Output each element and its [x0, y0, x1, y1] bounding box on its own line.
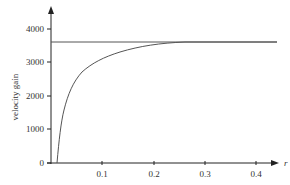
- y-ticks: [47, 29, 51, 163]
- x-axis-label: r: [284, 158, 288, 168]
- velocity-gain-chart: 0 1000 2000 3000 4000 0.1 0.2 0.3 0.4 r …: [0, 0, 290, 185]
- chart-canvas: 0 1000 2000 3000 4000 0.1 0.2 0.3 0.4 r …: [0, 0, 290, 185]
- x-tick-label: 0.4: [250, 169, 262, 179]
- x-tick-label: 0.3: [199, 169, 211, 179]
- x-tick-label: 0.2: [148, 169, 159, 179]
- x-axis-arrow-icon: [271, 160, 279, 166]
- x-tick-labels: 0.1 0.2 0.3 0.4: [96, 169, 262, 179]
- x-tick-label: 0.1: [96, 169, 107, 179]
- y-tick-label: 2000: [26, 91, 45, 101]
- y-tick-label: 1000: [26, 124, 45, 134]
- y-tick-label: 3000: [26, 57, 45, 67]
- y-axis-label: velocity gain: [10, 73, 20, 120]
- y-axis-arrow-icon: [48, 6, 54, 14]
- velocity-gain-curve: [57, 42, 277, 163]
- y-tick-label: 4000: [26, 24, 45, 34]
- y-tick-labels: 0 1000 2000 3000 4000: [26, 24, 45, 168]
- y-tick-label: 0: [40, 158, 45, 168]
